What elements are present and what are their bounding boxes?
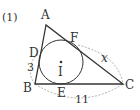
- tangent-label-d: D: [29, 46, 39, 60]
- incircle-triangle-diagram: (1) A B C D E F I 3 11 x: [0, 0, 140, 110]
- tangent-label-e: E: [57, 86, 66, 100]
- length-label-bc: 11: [75, 93, 89, 106]
- vertex-label-c: C: [125, 78, 134, 92]
- vertex-label-a: A: [40, 8, 50, 22]
- tangent-label-f: F: [70, 31, 78, 45]
- incenter-point: [60, 61, 63, 64]
- vertex-label-b: B: [23, 81, 32, 95]
- problem-number: (1): [2, 11, 18, 24]
- incenter-label: I: [58, 65, 63, 79]
- length-label-fc: x: [101, 51, 108, 65]
- length-label-bd: 3: [27, 61, 34, 74]
